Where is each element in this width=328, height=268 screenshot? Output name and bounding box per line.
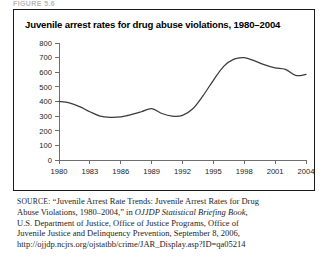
x-axis-tick-label: 1983 — [81, 167, 98, 176]
data-series-line — [59, 58, 306, 118]
source-label: SOURCE: — [17, 197, 50, 206]
source-line-4: Juvenile Justice and Delinquency Prevent… — [17, 228, 313, 238]
page-title: Juvenile arrest rates for drug abuse vio… — [25, 19, 280, 30]
source-line-2-text: Abuse Violations, 1980–2004,” in — [17, 207, 135, 217]
y-axis-tick-label: 200 — [39, 127, 52, 136]
y-axis-tick-label: 400 — [39, 97, 52, 106]
y-axis-tick-label: 0 — [48, 156, 52, 165]
y-axis-tick-label: 100 — [39, 141, 52, 150]
source-publication-title: OJJDP Statistical Briefing Book, — [135, 207, 248, 217]
x-axis-tick-label: 1980 — [51, 167, 68, 176]
x-axis-tick-label: 1998 — [236, 167, 253, 176]
y-axis-tick-label: 600 — [39, 68, 52, 77]
source-line-1-text: “Juvenile Arrest Rate Trends: Juvenile A… — [50, 196, 258, 206]
top-cut-caption: FIGURE 5.6 — [13, 0, 133, 7]
x-axis-tick-label: 2004 — [298, 167, 315, 176]
source-citation: SOURCE: “Juvenile Arrest Rate Trends: Ju… — [17, 196, 313, 249]
chart-plot-area: 0100200300400500600700800198019831986198… — [14, 40, 316, 190]
y-axis-tick-label: 500 — [39, 83, 52, 92]
y-axis-tick-label: 700 — [39, 53, 52, 62]
source-line-2: Abuse Violations, 1980–2004,” in OJJDP S… — [17, 207, 313, 217]
x-axis-tick-label: 1992 — [174, 167, 191, 176]
x-axis-tick-label: 1995 — [205, 167, 222, 176]
x-axis-tick-label: 2001 — [267, 167, 284, 176]
line-chart: 0100200300400500600700800198019831986198… — [14, 40, 316, 190]
figure-box: Juvenile arrest rates for drug abuse vio… — [13, 9, 315, 191]
source-line-1: SOURCE: “Juvenile Arrest Rate Trends: Ju… — [17, 196, 313, 207]
figure-page: FIGURE 5.6 Juvenile arrest rates for dru… — [0, 0, 328, 268]
y-axis-tick-label: 800 — [39, 40, 52, 48]
source-url: http://ojjdp.ncjrs.org/ojstatbb/crime/JA… — [17, 239, 313, 249]
x-axis-tick-label: 1989 — [143, 167, 160, 176]
y-axis-tick-label: 300 — [39, 112, 52, 121]
x-axis-tick-label: 1986 — [112, 167, 129, 176]
source-line-3: U.S. Department of Justice, Office of Ju… — [17, 218, 313, 228]
